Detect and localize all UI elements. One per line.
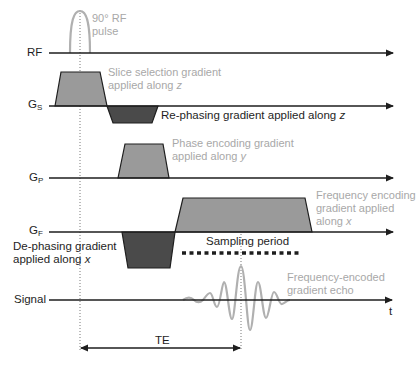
rf-pulse-annotation: 90° RF pulse <box>92 12 126 38</box>
gradient-echo-waveform <box>183 266 290 330</box>
dephasing-gradient <box>122 232 175 268</box>
time-axis-label: t <box>389 305 392 318</box>
rephasing-annotation: Re-phasing gradient applied along z <box>161 109 345 122</box>
te-label: TE <box>155 334 170 347</box>
gs-axis-label: GS <box>28 98 42 114</box>
rephasing-gradient <box>107 106 158 123</box>
phase-encoding-gradient <box>118 144 169 178</box>
gf-axis-label: GF <box>29 224 43 240</box>
pulse-sequence-diagram <box>0 0 417 366</box>
signal-axis-label: Signal <box>14 293 46 306</box>
frequency-encoding-gradient <box>175 198 312 232</box>
slice-selection-gradient <box>55 72 107 106</box>
sampling-period-label: Sampling period <box>206 235 289 248</box>
echo-annotation: Frequency-encoded gradient echo <box>287 271 385 297</box>
slice-selection-annotation: Slice selection gradient applied along z <box>108 66 221 92</box>
rf-axis-label: RF <box>27 46 42 59</box>
phase-encoding-annotation: Phase encoding gradient applied along y <box>172 137 294 163</box>
frequency-encoding-annotation: Frequency encoding gradient applied alon… <box>316 189 416 228</box>
dephasing-annotation: De-phasing gradient applied along x <box>13 240 117 266</box>
gp-axis-label: GP <box>29 171 43 187</box>
